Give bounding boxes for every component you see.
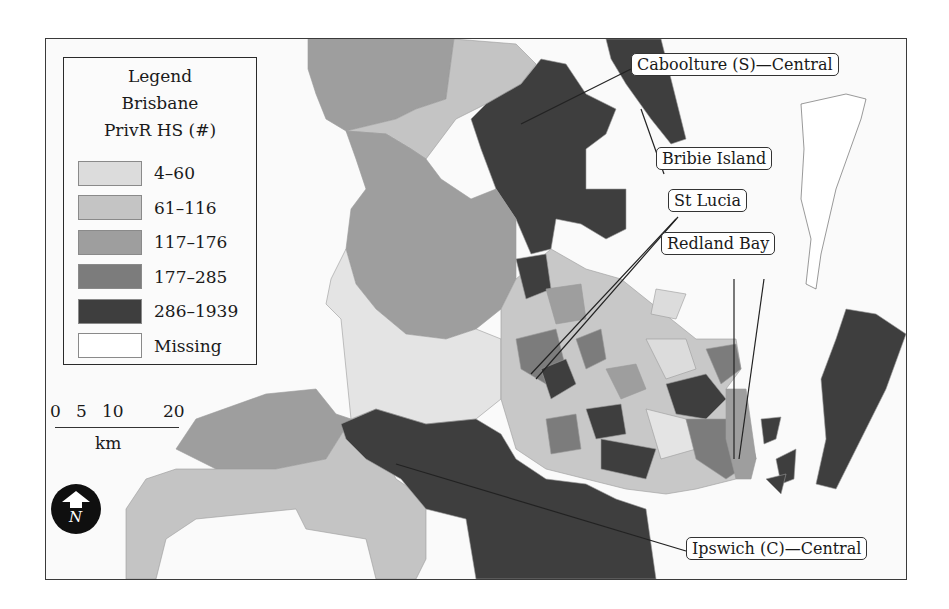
legend-swatch bbox=[78, 333, 142, 358]
map-frame: Legend Brisbane PrivR HS (#) 4–60 61–116… bbox=[45, 38, 907, 580]
north-label: N bbox=[69, 508, 82, 526]
legend-swatch bbox=[78, 264, 142, 289]
legend-item: 286–1939 bbox=[78, 294, 238, 329]
legend-item: 177–285 bbox=[78, 260, 238, 295]
callout-redland-bay: Redland Bay bbox=[661, 232, 775, 255]
legend-item: 4–60 bbox=[78, 156, 238, 191]
scale-tick: 10 bbox=[102, 401, 124, 421]
legend-swatch bbox=[78, 230, 142, 255]
legend-item: 61–116 bbox=[78, 191, 238, 226]
scale-tick: 5 bbox=[76, 401, 87, 421]
legend: Legend Brisbane PrivR HS (#) 4–60 61–116… bbox=[63, 57, 257, 365]
callout-st-lucia: St Lucia bbox=[668, 189, 747, 212]
callout-caboolture: Caboolture (S)—Central bbox=[631, 53, 839, 76]
scale-unit: km bbox=[95, 433, 121, 453]
region-southwest-mid bbox=[176, 389, 351, 469]
legend-heading: Legend bbox=[64, 63, 256, 90]
scale-bar: 0 5 10 20 km bbox=[50, 401, 190, 461]
scale-tick: 20 bbox=[163, 401, 185, 421]
legend-title: Legend Brisbane PrivR HS (#) bbox=[64, 63, 256, 144]
legend-variable: PrivR HS (#) bbox=[64, 117, 256, 144]
callout-ipswich: Ipswich (C)—Central bbox=[686, 537, 867, 560]
legend-swatch bbox=[78, 195, 142, 220]
legend-item: 117–176 bbox=[78, 225, 238, 260]
legend-swatch bbox=[78, 161, 142, 186]
legend-label: 177–285 bbox=[154, 267, 227, 287]
legend-item: Missing bbox=[78, 329, 238, 364]
north-arrow-icon bbox=[60, 490, 92, 510]
legend-label: 4–60 bbox=[154, 163, 195, 183]
legend-region: Brisbane bbox=[64, 90, 256, 117]
region-moreton-island bbox=[801, 94, 866, 289]
north-arrow: N bbox=[51, 484, 101, 534]
legend-label: 117–176 bbox=[154, 232, 227, 252]
legend-items: 4–60 61–116 117–176 177–285 286–1939 Mis… bbox=[78, 156, 238, 363]
legend-label: 286–1939 bbox=[154, 301, 238, 321]
legend-label: Missing bbox=[154, 336, 222, 356]
region-stradbroke bbox=[816, 309, 906, 489]
scale-tick: 0 bbox=[50, 401, 61, 421]
scale-ticks: 0 5 10 20 bbox=[50, 401, 190, 423]
legend-swatch bbox=[78, 299, 142, 324]
scale-line bbox=[55, 427, 179, 428]
legend-label: 61–116 bbox=[154, 198, 217, 218]
callout-bribie-island: Bribie Island bbox=[656, 147, 772, 170]
